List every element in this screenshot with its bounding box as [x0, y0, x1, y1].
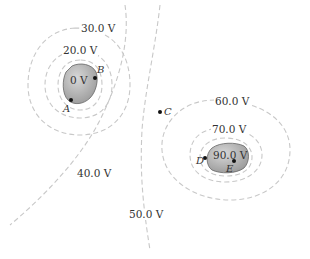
point-e-label: E: [226, 164, 233, 174]
equipotential-diagram: 30.0 V 20.0 V 40.0 V 50.0 V 60.0 V 70.0 …: [0, 0, 310, 259]
point-a-label: A: [63, 104, 70, 114]
label-40v: 40.0 V: [76, 168, 112, 179]
conductor-left-label: 0 V: [70, 75, 88, 86]
label-70v: 70.0 V: [211, 124, 247, 135]
conductor-right-label: 90.0 V: [213, 150, 247, 161]
label-60v: 60.0 V: [214, 96, 250, 107]
label-30v: 30.0 V: [80, 23, 116, 34]
label-20v: 20.0 V: [62, 45, 98, 56]
point-a-dot: [69, 98, 73, 102]
point-c-label: C: [164, 107, 172, 117]
point-c-dot: [158, 110, 162, 114]
equipotential-40v: [10, 5, 126, 225]
diagram-canvas: [0, 0, 310, 259]
point-b-dot: [93, 76, 97, 80]
point-b-label: B: [97, 65, 104, 75]
point-d-label: D: [196, 156, 204, 166]
label-50v: 50.0 V: [128, 209, 164, 220]
